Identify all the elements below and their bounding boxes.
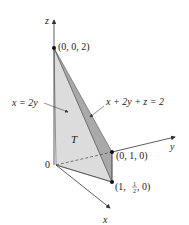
point-y-label: (0, 1, 0) — [116, 150, 148, 162]
y-axis-label: y — [169, 141, 175, 152]
x-axis-label: x — [102, 214, 108, 225]
svg-text:1: 1 — [133, 181, 136, 187]
point-z — [52, 46, 56, 50]
point-y — [110, 150, 114, 154]
point-xy — [110, 180, 114, 184]
tetrahedron-diagram: z y x 0 (0, 0, 2) (0, 1, 0) (1, 1 2 , 0)… — [0, 0, 189, 225]
plane-left-label: x = 2y — [11, 97, 38, 108]
plane-right-label: x + 2y + z = 2 — [105, 96, 164, 107]
origin-label: 0 — [45, 159, 50, 170]
svg-text:(1,: (1, — [115, 181, 126, 193]
region-label: T — [71, 133, 78, 145]
svg-text:2: 2 — [133, 188, 136, 194]
point-z-label: (0, 0, 2) — [58, 41, 90, 53]
plane-right-leader — [90, 106, 104, 117]
z-axis-label: z — [44, 15, 49, 26]
svg-text:, 0): , 0) — [137, 181, 150, 193]
point-xy-label: (1, 1 2 , 0) — [115, 181, 150, 194]
